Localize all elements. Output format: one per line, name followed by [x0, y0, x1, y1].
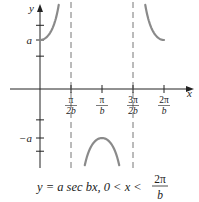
x-axis-label: x — [186, 87, 192, 99]
curve-branch-right — [145, 5, 164, 40]
x-tick-label-num-2: 3π — [128, 95, 138, 105]
y-tick-label-1: −a — [19, 132, 32, 144]
caption-equation: y = a sec bx, 0 < x < — [35, 180, 142, 194]
x-tick-label-den-3: b — [162, 106, 167, 116]
y-axis-arrow — [37, 4, 43, 12]
y-tick-label-0: a — [27, 34, 33, 46]
x-tick-label-den-1: b — [100, 106, 105, 116]
curve-branch-middle — [85, 138, 119, 165]
x-tick-label-num-3: 2π — [159, 95, 169, 105]
caption-fraction-numerator: 2π — [154, 173, 166, 185]
y-axis-label: y — [28, 2, 34, 14]
x-tick-label-den-2: 2b — [128, 106, 138, 116]
x-tick-label-num-0: π — [69, 95, 74, 105]
caption-fraction-denominator: b — [157, 189, 163, 201]
x-tick-label-num-1: π — [100, 95, 105, 105]
x-tick-label-den-0: 2b — [66, 106, 76, 116]
secant-graph: x y a−a π2bπb3π2b2πb y = a sec bx, 0 < x… — [0, 0, 199, 202]
curve-branch-left — [40, 5, 59, 40]
